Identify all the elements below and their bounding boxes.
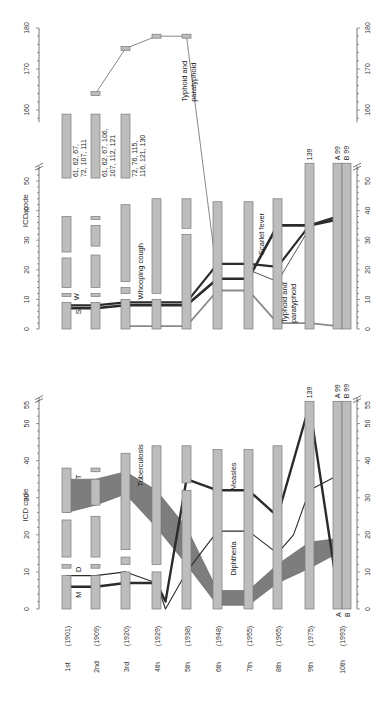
code-block [91, 564, 100, 568]
code-block [152, 446, 161, 565]
y-tick-label: 10 [23, 568, 30, 576]
annotation-diphtheria: Diphtheria [229, 541, 238, 576]
code-block [91, 293, 100, 296]
annotation-typhoid-high-line2: paratyphoid [189, 63, 198, 102]
code-block [62, 520, 71, 557]
code-note-text: 72, 107, 111 [80, 139, 87, 177]
revision-labels: 1st(1901)2nd(1909)3rd(1920)4th(1929)5th(… [64, 626, 347, 674]
revision-year: (1929) [154, 626, 162, 646]
annotation-measles-M: M [74, 592, 83, 598]
col10a-label: A 99 [335, 146, 342, 160]
y-tick-label: 160 [364, 104, 371, 116]
y-tick-label: 55 [364, 401, 371, 409]
code-block [182, 199, 191, 229]
y-tick-label: 20 [23, 531, 30, 539]
revision-label: 6th [215, 662, 222, 672]
revision-label: 5th [184, 662, 191, 672]
revision-year: (1993) [339, 626, 347, 646]
code-note-text: 61, 62, 67, 106, [101, 128, 108, 177]
code-note-text: 72, 76, 115, [131, 141, 138, 178]
y-tick-label: 50 [364, 177, 371, 185]
code-block [213, 202, 222, 329]
annotation-scarlet-S: S [74, 309, 83, 314]
typhoid-code-marker [91, 92, 100, 96]
code-block [213, 450, 222, 609]
code-block [62, 293, 71, 296]
y-tick-label: 40 [364, 457, 371, 465]
code-block [121, 572, 130, 609]
col9-label: 139 [307, 387, 314, 399]
code-block [91, 225, 100, 246]
y-tick-label: 30 [23, 236, 30, 244]
code-block-b [342, 163, 351, 329]
revision-label: 1st [64, 662, 71, 671]
code-note-text: 116, 121, 130 [139, 135, 146, 177]
code-note-text: 107, 112, 121 [109, 135, 116, 177]
y-tick-label: 0 [23, 607, 30, 611]
annotation-whooping-W: W [72, 292, 81, 300]
high-code-block [121, 114, 130, 178]
y-tick-label: 20 [364, 531, 371, 539]
code-block [62, 468, 71, 513]
y-tick-label: 0 [364, 327, 371, 331]
col10b-label: B 99 [344, 146, 351, 161]
col10a-label: A 99 [335, 384, 342, 398]
y-tick-label: 0 [364, 607, 371, 611]
code-block-b [342, 401, 351, 609]
typhoid-code-marker [182, 34, 191, 38]
code-block [273, 446, 282, 609]
y-tick-label: 170 [23, 63, 30, 75]
y-tick-label: 50 [23, 420, 30, 428]
code-block [333, 163, 342, 329]
revision-year: (1965) [275, 626, 283, 646]
high-code-block [91, 114, 100, 178]
revision-year: (1909) [93, 626, 101, 646]
col10b-bottom-label: B [344, 612, 351, 617]
annotation-typhoid-high-line1: Typhoid and [180, 61, 189, 102]
code-block [62, 564, 71, 568]
typhoid-code-marker [121, 47, 130, 51]
y-tick-label: 55 [23, 401, 30, 409]
code-block [91, 576, 100, 609]
code-block [182, 490, 191, 609]
code-block [121, 299, 130, 329]
revision-year: (1901) [64, 626, 72, 646]
code-block [62, 258, 71, 288]
y-axis-title: ICD code [21, 488, 30, 522]
code-block [91, 302, 100, 329]
annotation-typhoid-line2: paratyphoid [289, 284, 298, 323]
revision-year: (1975) [307, 626, 315, 646]
lower-panel: 01020304050550102030405055ICD code139A 9… [21, 384, 371, 617]
y-tick-label: 40 [364, 207, 371, 215]
code-block [62, 576, 71, 609]
annotation-measles: Measles [229, 462, 238, 490]
code-block [305, 163, 314, 329]
y-tick-label: 180 [364, 22, 371, 34]
y-tick-label: 180 [23, 22, 30, 34]
revision-label: 3rd [123, 662, 130, 672]
code-block [152, 199, 161, 294]
y-tick-label: 50 [364, 420, 371, 428]
y-tick-label: 170 [364, 63, 371, 75]
col10b-label: B 99 [344, 384, 351, 399]
code-block [91, 255, 100, 288]
y-tick-label: 10 [23, 295, 30, 303]
code-block [305, 401, 314, 609]
code-block [244, 202, 253, 329]
revision-label: 8th [275, 662, 282, 672]
code-note-text: 61, 62, 67, [72, 144, 79, 177]
code-block [62, 302, 71, 329]
code-block [91, 217, 100, 220]
revision-year: (1955) [246, 626, 254, 646]
col9-label: 139 [307, 148, 314, 160]
revision-label: 9th [307, 662, 314, 672]
code-block [91, 516, 100, 557]
y-tick-label: 30 [364, 494, 371, 502]
annotation-whooping-cough: Whooping cough [136, 243, 145, 299]
revision-label: 2nd [93, 661, 100, 673]
y-tick-label: 40 [23, 457, 30, 465]
annotation-diphtheria-D: D [74, 566, 83, 572]
code-block [152, 572, 161, 609]
revision-label: 10th [339, 660, 346, 674]
code-block [121, 205, 130, 282]
